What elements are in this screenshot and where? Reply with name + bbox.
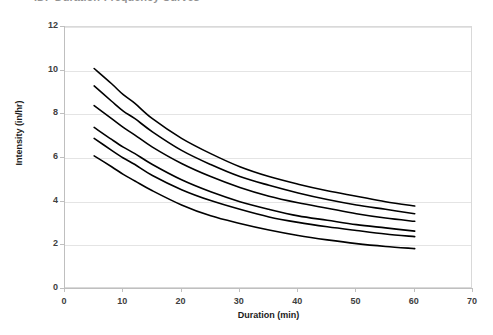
y-axis-labels: 024681012 (0, 0, 58, 335)
x-tick-mark (239, 288, 240, 292)
chart-title-cropped: IDF Duration-Frequency Curves (0, 0, 493, 3)
x-tick-label: 70 (452, 296, 492, 306)
y-tick-label: 12 (6, 20, 58, 30)
y-tick-mark (60, 244, 64, 245)
x-axis-title: Duration (min) (64, 310, 473, 320)
x-tick-label: 60 (394, 296, 434, 306)
curve-line (94, 86, 415, 214)
x-tick-label: 50 (335, 296, 375, 306)
x-tick-label: 20 (161, 296, 201, 306)
x-axis-line (64, 288, 473, 289)
y-tick-mark (60, 70, 64, 71)
y-tick-mark (60, 26, 64, 27)
x-tick-mark (64, 288, 65, 292)
y-tick-mark (60, 288, 64, 289)
x-tick-mark (355, 288, 356, 292)
x-tick-mark (472, 288, 473, 292)
y-tick-mark (60, 113, 64, 114)
y-axis-line (64, 26, 65, 288)
x-tick-mark (297, 288, 298, 292)
y-axis-title: Intensity (in/hr) (14, 73, 24, 193)
x-tick-mark (414, 288, 415, 292)
chart-page: IDF Duration-Frequency Curves 024681012 … (0, 0, 493, 335)
x-tick-label: 0 (44, 296, 84, 306)
curve-line (94, 106, 415, 222)
x-tick-mark (122, 288, 123, 292)
y-tick-label: 0 (6, 282, 58, 292)
x-tick-label: 30 (219, 296, 259, 306)
y-tick-mark (60, 201, 64, 202)
x-tick-label: 40 (277, 296, 317, 306)
curve-line (94, 138, 415, 236)
chart-title-text: IDF Duration-Frequency Curves (0, 0, 493, 3)
curve-series-layer (65, 27, 473, 289)
x-tick-label: 10 (102, 296, 142, 306)
y-tick-label: 2 (6, 238, 58, 248)
y-tick-label: 4 (6, 195, 58, 205)
plot-area (64, 26, 472, 288)
y-tick-mark (60, 157, 64, 158)
x-tick-mark (181, 288, 182, 292)
